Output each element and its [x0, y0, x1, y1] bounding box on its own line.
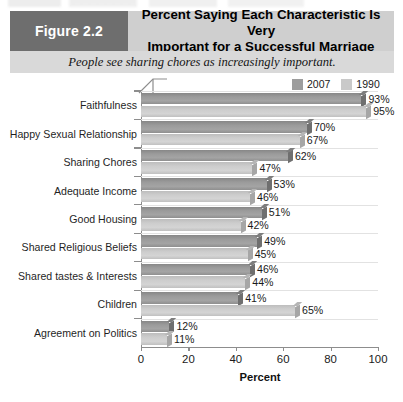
bar-3d-side-face: [252, 163, 257, 177]
bar-body: [141, 321, 169, 332]
bar-value-label: 49%: [264, 235, 285, 247]
bar-1990-good-housing[interactable]: 42%: [141, 219, 241, 230]
bar-1990-happy-sexual-relationship[interactable]: 67%: [141, 134, 300, 145]
bar-group: 41%65%: [141, 290, 381, 318]
bar-3d-side-face: [295, 305, 300, 319]
x-axis-tick: [236, 347, 237, 351]
x-axis-tick: [188, 347, 189, 351]
bar-body: [141, 248, 248, 259]
bar-body: [141, 121, 307, 132]
bar-value-label: 53%: [274, 178, 295, 190]
category-label: Faithfulness: [80, 99, 137, 111]
x-axis-tick-label: 80: [324, 353, 337, 365]
bar-1990-shared-tastes-interests[interactable]: 44%: [141, 276, 245, 287]
bar-row: Faithfulness93%95%: [0, 91, 403, 119]
category-label: Shared tastes & Interests: [18, 270, 137, 282]
bar-value-label: 47%: [259, 162, 280, 174]
bar-1990-agreement-on-politics[interactable]: 11%: [141, 333, 167, 344]
category-label: Sharing Chores: [63, 156, 137, 168]
bar-row: Happy Sexual Relationship70%67%: [0, 119, 403, 147]
bar-2007-happy-sexual-relationship[interactable]: 70%: [141, 121, 307, 132]
bar-3d-top-face: [364, 103, 373, 107]
bar-row: Sharing Chores62%47%: [0, 148, 403, 176]
bar-body: [141, 191, 250, 202]
bar-2007-agreement-on-politics[interactable]: 12%: [141, 321, 169, 332]
bar-2007-shared-religious-beliefs[interactable]: 49%: [141, 235, 257, 246]
bar-body: [141, 305, 295, 316]
bar-value-label: 70%: [314, 121, 335, 133]
figure-title: Percent Saying Each Characteristic Is Ve…: [128, 11, 394, 51]
x-axis-tick-label: 60: [277, 353, 290, 365]
bar-value-label: 46%: [257, 190, 278, 202]
bar-3d-side-face: [288, 150, 293, 164]
bar-value-label: 44%: [252, 276, 273, 288]
bar-value-label: 67%: [307, 133, 328, 145]
category-label: Adequate Income: [54, 185, 137, 197]
bar-2007-children[interactable]: 41%: [141, 292, 238, 303]
bar-value-label: 42%: [248, 219, 269, 231]
category-label: Children: [98, 298, 137, 310]
bar-3d-side-face: [241, 220, 246, 234]
bar-rows: Faithfulness93%95%Happy Sexual Relations…: [0, 91, 403, 347]
bar-value-label: 46%: [257, 263, 278, 275]
x-axis-tick: [141, 347, 142, 351]
bar-2007-shared-tastes-interests[interactable]: 46%: [141, 264, 250, 275]
figure-number-badge: Figure 2.2: [10, 11, 128, 51]
bar-2007-faithfulness[interactable]: 93%: [141, 93, 361, 104]
bar-1990-adequate-income[interactable]: 46%: [141, 191, 250, 202]
bar-group: 53%46%: [141, 176, 381, 204]
bar-3d-top-face: [248, 261, 257, 265]
x-axis-tick: [331, 347, 332, 351]
category-label: Shared Religious Beliefs: [22, 241, 137, 253]
bar-3d-top-face: [305, 119, 314, 123]
bar-1990-faithfulness[interactable]: 95%: [141, 106, 366, 117]
bar-3d-side-face: [300, 134, 305, 148]
bar-value-label: 95%: [373, 105, 394, 117]
bar-2007-adequate-income[interactable]: 53%: [141, 178, 267, 189]
bar-1990-children[interactable]: 65%: [141, 305, 295, 316]
bar-group: 12%11%: [141, 319, 381, 347]
x-axis-tick: [283, 347, 284, 351]
bar-group: 70%67%: [141, 119, 381, 147]
bar-body: [141, 93, 361, 104]
bar-group: 62%47%: [141, 148, 381, 176]
bar-3d-top-face: [255, 233, 264, 237]
bar-3d-top-face: [286, 148, 295, 152]
x-axis-title: Percent: [239, 371, 280, 383]
bar-value-label: 41%: [245, 292, 266, 304]
bar-group: 46%44%: [141, 262, 381, 290]
bar-2007-sharing-chores[interactable]: 62%: [141, 150, 288, 161]
x-axis-tick: [378, 347, 379, 351]
x-axis-tick-label: 100: [368, 353, 387, 365]
bar-value-label: 62%: [295, 149, 316, 161]
bar-3d-side-face: [167, 333, 172, 347]
bar-body: [141, 162, 252, 173]
bar-1990-shared-religious-beliefs[interactable]: 45%: [141, 248, 248, 259]
bar-body: [141, 219, 241, 230]
x-axis-tick-label: 20: [182, 353, 195, 365]
category-label: Agreement on Politics: [34, 327, 137, 339]
category-label: Happy Sexual Relationship: [10, 128, 137, 140]
bar-3d-top-face: [260, 204, 269, 208]
bar-body: [141, 276, 245, 287]
bar-body: [141, 106, 366, 117]
bar-row: Adequate Income53%46%: [0, 176, 403, 204]
bar-3d-side-face: [248, 248, 253, 262]
bar-3d-side-face: [245, 277, 250, 291]
bar-value-label: 11%: [174, 333, 194, 345]
bar-1990-sharing-chores[interactable]: 47%: [141, 162, 252, 173]
bar-body: [141, 264, 250, 275]
bar-row: Agreement on Politics12%11%: [0, 319, 403, 347]
bar-3d-top-face: [293, 302, 302, 306]
bar-row: Children41%65%: [0, 290, 403, 318]
bar-chart: Faithfulness93%95%Happy Sexual Relations…: [0, 78, 403, 402]
category-label: Good Housing: [69, 213, 137, 225]
bar-body: [141, 150, 288, 161]
figure-subtitle: People see sharing chores as increasingl…: [10, 51, 394, 73]
bar-body: [141, 134, 300, 145]
bar-row: Shared Religious Beliefs49%45%: [0, 233, 403, 261]
bar-group: 49%45%: [141, 233, 381, 261]
bar-body: [141, 178, 267, 189]
bar-body: [141, 235, 257, 246]
bar-3d-side-face: [366, 106, 371, 120]
